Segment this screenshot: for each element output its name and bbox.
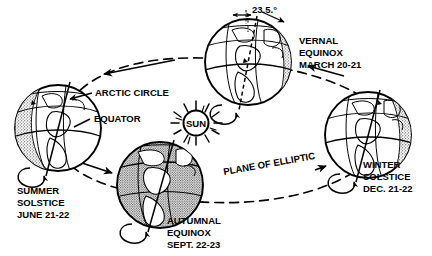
autumnal-equinox-line2: EQUINOX — [167, 227, 211, 238]
tilt-label: 23.5.° — [252, 4, 277, 15]
vernal-equinox-line3: MARCH 20-21 — [299, 59, 362, 70]
plane-of-elliptic-label: PLANE OF ELLIPTIC — [222, 150, 316, 177]
globe-summer-solstice[interactable] — [15, 82, 101, 187]
callout-plane-of-elliptic: PLANE OF ELLIPTIC — [222, 150, 316, 177]
summer-solstice-line2: SOLSTICE — [17, 197, 65, 208]
label-summer-solstice: SUMMER SOLSTICE JUNE 21-22 — [17, 185, 69, 220]
winter-solstice-line3: DEC. 21-22 — [363, 183, 413, 194]
sun-label: SUN — [186, 118, 206, 129]
arctic-circle-label: ARCTIC CIRCLE — [95, 87, 169, 98]
vernal-equinox-line1: VERNAL — [299, 35, 338, 46]
label-winter-solstice: WINTER SOLSTICE DEC. 21-22 — [363, 159, 413, 194]
summer-solstice-line3: JUNE 21-22 — [17, 209, 69, 220]
equator-label: EQUATOR — [94, 113, 141, 124]
winter-solstice-line1: WINTER — [363, 159, 401, 170]
winter-solstice-line2: SOLSTICE — [363, 171, 411, 182]
summer-solstice-line1: SUMMER — [17, 185, 59, 196]
autumnal-equinox-line3: SEPT. 22-23 — [167, 239, 220, 250]
label-vernal-equinox: VERNAL EQUINOX MARCH 20-21 — [299, 35, 362, 70]
seasons-diagram: SUN 23.5.° ARCTIC CIRCLE EQUATOR PLANE O… — [0, 0, 432, 256]
label-autumnal-equinox: AUTUMNAL EQUINOX SEPT. 22-23 — [167, 215, 221, 250]
autumnal-equinox-line1: AUTUMNAL — [167, 215, 221, 226]
globe-vernal-equinox[interactable] — [205, 14, 292, 124]
diagram-canvas: SUN 23.5.° ARCTIC CIRCLE EQUATOR PLANE O… — [0, 0, 432, 256]
sun[interactable]: SUN — [171, 101, 222, 145]
vernal-equinox-line2: EQUINOX — [299, 47, 343, 58]
